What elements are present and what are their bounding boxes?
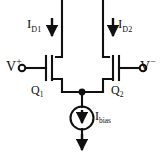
label-vminus-superscript: −: [150, 56, 156, 67]
label-input-negative: V−: [140, 57, 156, 74]
circuit-schematic-svg: [0, 0, 165, 158]
wire-source-left: [52, 79, 62, 92]
label-transistor-q1: Q1: [31, 84, 43, 99]
label-q1-subscript: 1: [40, 90, 44, 99]
label-drain-current-right: ID2: [118, 17, 132, 34]
label-id1-subscript: D1: [31, 25, 41, 34]
label-ibias-subscript: bias: [99, 116, 111, 125]
label-q1-symbol: Q: [31, 83, 40, 97]
wire-drain-left: [56, 0, 62, 57]
label-id2-subscript: D2: [122, 25, 132, 34]
label-input-positive: V+: [6, 57, 22, 74]
label-q2-symbol: Q: [111, 83, 120, 97]
wire-drain-right: [103, 0, 109, 57]
label-bias-current: Ibias: [95, 110, 111, 125]
label-q2-subscript: 2: [120, 90, 124, 99]
label-vminus-symbol: V: [140, 59, 150, 74]
label-transistor-q2: Q2: [111, 84, 123, 99]
label-drain-current-left: ID1: [27, 17, 41, 34]
circuit-diagram: ID1 ID2 V+ V− Q1 Q2 Ibias: [0, 0, 165, 158]
label-vplus-symbol: V: [6, 59, 16, 74]
label-vplus-superscript: +: [16, 56, 22, 67]
junction-dot-tail: [79, 89, 86, 96]
